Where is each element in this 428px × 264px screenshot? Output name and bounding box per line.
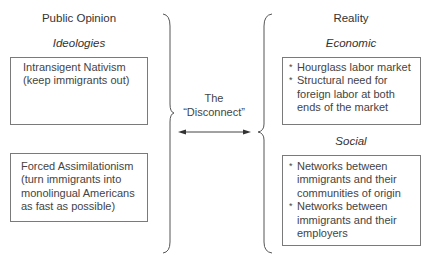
disconnect-label: The “Disconnect” bbox=[174, 91, 254, 119]
bullet-marker: * bbox=[289, 61, 297, 74]
social-subtitle: Social bbox=[282, 135, 420, 147]
bullet-line: foreign labor at both bbox=[297, 88, 395, 101]
box-line: (keep immigrants out) bbox=[23, 74, 147, 87]
public-opinion-title: Public Opinion bbox=[10, 12, 148, 24]
disconnect-label-line1: The bbox=[174, 91, 254, 105]
box-line: Forced Assimilationism bbox=[21, 160, 147, 173]
bullet-item: * Networks between immigrants and their … bbox=[289, 200, 420, 240]
bullet-line: immigrants and their bbox=[297, 173, 401, 186]
bullet-marker: * bbox=[289, 74, 297, 114]
bullet-marker: * bbox=[289, 160, 297, 200]
social-box: * Networks between immigrants and their … bbox=[282, 155, 421, 246]
intransigent-nativism-box: Intransigent Nativism (keep immigrants o… bbox=[10, 57, 148, 125]
forced-assimilationism-box: Forced Assimilationism (turn immigrants … bbox=[10, 153, 148, 222]
right-brace bbox=[258, 14, 272, 253]
box-line: as fast as possible) bbox=[21, 200, 147, 213]
disconnect-label-line2: “Disconnect” bbox=[174, 105, 254, 119]
bullet-item: * Structural need for foreign labor at b… bbox=[289, 74, 420, 114]
bullet-item: * Networks between immigrants and their … bbox=[289, 160, 420, 200]
economic-subtitle: Economic bbox=[282, 37, 420, 49]
bullet-line: Networks between bbox=[297, 200, 397, 213]
bullet-line: Hourglass labor market bbox=[297, 61, 411, 74]
left-brace bbox=[163, 14, 174, 253]
double-headed-arrow-icon bbox=[178, 130, 251, 135]
box-line: Intransigent Nativism bbox=[23, 61, 147, 74]
ideologies-subtitle: Ideologies bbox=[10, 37, 148, 49]
bullet-line: ends of the market bbox=[297, 101, 395, 114]
bullet-line: Structural need for bbox=[297, 74, 395, 87]
economic-box: * Hourglass labor market * Structural ne… bbox=[282, 57, 421, 125]
bullet-line: immigrants and their bbox=[297, 214, 397, 227]
reality-title: Reality bbox=[282, 12, 420, 24]
box-line: monolingual Americans bbox=[21, 187, 147, 200]
bullet-item: * Hourglass labor market bbox=[289, 61, 420, 74]
bullet-line: Networks between bbox=[297, 160, 401, 173]
bullet-line: communities of origin bbox=[297, 187, 401, 200]
box-line: (turn immigrants into bbox=[21, 173, 147, 186]
bullet-marker: * bbox=[289, 200, 297, 240]
bullet-line: employers bbox=[297, 227, 397, 240]
